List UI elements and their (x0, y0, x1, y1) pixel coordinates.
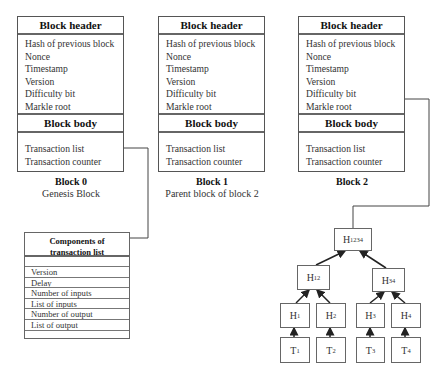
merkle-leaf-t1: T1 (280, 337, 310, 363)
block-1: Block header Hash of previous block Nonc… (158, 16, 265, 172)
field-difficulty: Difficulty bit (25, 88, 114, 101)
node-sub: 4 (407, 347, 410, 354)
field-timestamp: Timestamp (306, 63, 395, 76)
merkle-leaf-t3: T3 (356, 337, 385, 363)
field-timestamp: Timestamp (25, 63, 114, 76)
caption-subtitle: Parent block of block 2 (152, 188, 272, 200)
component-row-list-of-inputs: List of inputs (25, 298, 129, 309)
field-version: Version (166, 76, 255, 89)
node-sub: 4 (408, 312, 411, 319)
divider (25, 255, 129, 257)
node-sub: 34 (389, 277, 396, 284)
divider (159, 113, 264, 115)
merkle-node-h12: H12 (297, 265, 330, 290)
divider (18, 131, 123, 133)
divider (159, 33, 264, 35)
block-header-title: Block header (159, 19, 264, 31)
body-fields: Transaction list Transaction counter (25, 143, 101, 168)
field-nonce: Nonce (25, 51, 114, 64)
field-timestamp: Timestamp (166, 63, 255, 76)
merkle-node-h4: H4 (391, 303, 421, 328)
component-row-number-of-output: Number of output (25, 308, 129, 319)
field-transaction-list: Transaction list (306, 143, 382, 156)
component-row-list-of-output: List of output (25, 319, 129, 330)
divider (18, 33, 123, 35)
component-row-empty (25, 330, 129, 341)
field-transaction-counter: Transaction counter (166, 156, 242, 169)
components-title-line1: Components of (25, 236, 129, 247)
block-body-title: Block body (159, 117, 264, 129)
divider (299, 113, 404, 115)
merkle-root-node: H1234 (334, 228, 372, 251)
field-markle-root: Markle root (166, 101, 255, 114)
block-body-title: Block body (299, 117, 404, 129)
node-sub: 1 (297, 312, 300, 319)
divider (159, 131, 264, 133)
field-hash-previous: Hash of previous block (166, 38, 255, 51)
header-fields: Hash of previous block Nonce Timestamp V… (306, 38, 395, 114)
node-sub: 12 (314, 274, 321, 281)
field-version: Version (306, 76, 395, 89)
component-row-delay: Delay (25, 277, 129, 288)
merkle-node-h34: H34 (372, 268, 405, 292)
block-0: Block header Hash of previous block Nonc… (17, 16, 124, 172)
header-fields: Hash of previous block Nonce Timestamp V… (166, 38, 255, 114)
caption-subtitle: Genesis Block (11, 188, 131, 200)
field-transaction-counter: Transaction counter (25, 156, 101, 169)
field-hash-previous: Hash of previous block (25, 38, 114, 51)
field-hash-previous: Hash of previous block (306, 38, 395, 51)
components-title: Components of transaction list (25, 236, 129, 257)
field-markle-root: Markle root (306, 101, 395, 114)
block-2: Block header Hash of previous block Nonc… (298, 16, 405, 172)
field-markle-root: Markle root (25, 101, 114, 114)
body-fields: Transaction list Transaction counter (306, 143, 382, 168)
block-header-title: Block header (299, 19, 404, 31)
divider (299, 33, 404, 35)
node-base: H (365, 310, 372, 321)
merkle-node-h2: H2 (316, 303, 346, 328)
node-base: H (326, 310, 333, 321)
field-nonce: Nonce (306, 51, 395, 64)
node-sub: 3 (372, 347, 375, 354)
block-header-title: Block header (18, 19, 123, 31)
node-sub: 2 (332, 347, 335, 354)
node-sub: 1 (296, 347, 299, 354)
field-difficulty: Difficulty bit (166, 88, 255, 101)
merkle-node-h1: H1 (280, 303, 310, 328)
field-version: Version (25, 76, 114, 89)
component-row-number-of-inputs: Number of inputs (25, 287, 129, 298)
node-base: H (401, 310, 408, 321)
merkle-leaf-t4: T4 (391, 337, 421, 363)
header-fields: Hash of previous block Nonce Timestamp V… (25, 38, 114, 114)
field-transaction-list: Transaction list (166, 143, 242, 156)
divider (299, 131, 404, 133)
merkle-leaf-t2: T2 (316, 337, 346, 363)
node-sub: 3 (372, 312, 375, 319)
field-transaction-list: Transaction list (25, 143, 101, 156)
field-nonce: Nonce (166, 51, 255, 64)
node-base: H (307, 272, 314, 283)
divider (18, 113, 123, 115)
caption-title: Block 1 (152, 176, 272, 188)
components-of-transaction-list: Components of transaction list Version D… (24, 232, 130, 339)
block-1-caption: Block 1 Parent block of block 2 (152, 176, 272, 200)
field-transaction-counter: Transaction counter (306, 156, 382, 169)
body-fields: Transaction list Transaction counter (166, 143, 242, 168)
node-sub: 2 (333, 312, 336, 319)
field-difficulty: Difficulty bit (306, 88, 395, 101)
block-0-caption: Block 0 Genesis Block (11, 176, 131, 200)
component-row-version: Version (25, 266, 129, 277)
merkle-node-h3: H3 (356, 303, 385, 328)
node-base: H (343, 234, 350, 245)
node-sub: 1234 (350, 236, 363, 243)
node-base: H (290, 310, 297, 321)
node-base: H (382, 275, 389, 286)
caption-title: Block 2 (292, 176, 412, 188)
caption-title: Block 0 (11, 176, 131, 188)
block-body-title: Block body (18, 117, 123, 129)
block-2-caption: Block 2 (292, 176, 412, 188)
